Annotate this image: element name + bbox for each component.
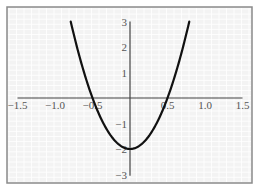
y-tick-label: −3 [115, 169, 127, 181]
y-tick-label: −1 [115, 118, 127, 130]
y-tick-label: 3 [122, 16, 128, 28]
y-tick-label: 1 [122, 67, 128, 79]
x-tick-label: 1.5 [236, 99, 250, 111]
y-tick-label: 2 [122, 41, 128, 53]
chart-canvas: −1.5−1.0−0.50.51.01.5 321−1−2−3 [0, 0, 256, 186]
x-tick-label: 1.0 [198, 99, 212, 111]
x-tick-label: −1.0 [45, 99, 65, 111]
x-tick-label: −1.5 [8, 99, 28, 111]
